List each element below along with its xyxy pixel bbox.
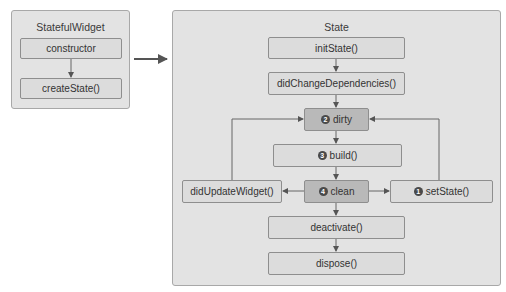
did-change-dependencies-node: didChangeDependencies() [268, 72, 405, 95]
dirty-label: dirty [333, 114, 352, 125]
step-1-badge: 1 [414, 187, 423, 196]
build-label: build() [330, 150, 358, 161]
init-state-label: initState() [315, 43, 358, 54]
step-3-badge: 3 [318, 151, 327, 160]
constructor-node: constructor [20, 38, 122, 59]
step-4-badge: 4 [319, 187, 328, 196]
set-state-label: setState() [426, 186, 469, 197]
dirty-node: 2 dirty [304, 108, 369, 131]
stateful-widget-title: StatefulWidget [12, 21, 129, 33]
init-state-node: initState() [268, 37, 405, 59]
set-state-node: 1 setState() [390, 180, 493, 203]
create-state-node: createState() [20, 78, 122, 99]
deactivate-label: deactivate() [310, 222, 362, 233]
did-change-dependencies-label: didChangeDependencies() [277, 78, 396, 89]
create-state-label: createState() [42, 83, 100, 94]
dispose-node: dispose() [268, 252, 405, 275]
clean-node: 4 clean [304, 180, 369, 203]
constructor-label: constructor [46, 43, 95, 54]
clean-label: clean [331, 186, 355, 197]
did-update-widget-node: didUpdateWidget() [182, 180, 282, 203]
build-node: 3 build() [273, 144, 402, 167]
state-title: State [173, 21, 500, 33]
deactivate-node: deactivate() [268, 216, 405, 239]
dispose-label: dispose() [316, 258, 357, 269]
did-update-widget-label: didUpdateWidget() [190, 186, 273, 197]
step-2-badge: 2 [321, 115, 330, 124]
